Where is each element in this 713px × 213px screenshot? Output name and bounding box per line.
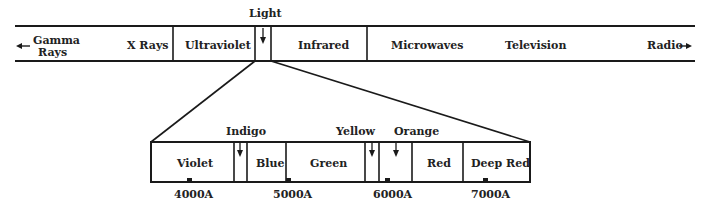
tick-6000-label: 6000A bbox=[373, 188, 413, 201]
band-violet-label: Violet bbox=[176, 157, 214, 170]
region-radio-label: Radio bbox=[647, 39, 683, 52]
region-gamma-label-line2: Rays bbox=[38, 46, 67, 59]
region-light-label: Light bbox=[249, 7, 283, 20]
indigo-down-arrow-icon bbox=[237, 143, 243, 157]
band-green-label: Green bbox=[310, 157, 347, 170]
yellow-down-arrow-icon bbox=[369, 143, 375, 157]
band-yellow-label: Yellow bbox=[335, 125, 376, 138]
tick-4000-marker bbox=[187, 178, 192, 182]
tick-5000-label: 5000A bbox=[273, 188, 313, 201]
left-arrow-icon bbox=[16, 43, 30, 49]
band-deep-red-label: Deep Red bbox=[471, 157, 530, 170]
tick-7000-marker bbox=[483, 178, 488, 182]
region-microwaves-label: Microwaves bbox=[391, 39, 463, 52]
full-spectrum-band: Gamma Rays X Rays Ultraviolet Light Infr… bbox=[15, 7, 695, 61]
band-indigo-label: Indigo bbox=[226, 125, 266, 138]
region-ultraviolet-label: Ultraviolet bbox=[185, 39, 252, 52]
orange-down-arrow-icon bbox=[393, 143, 399, 157]
region-television-label: Television bbox=[505, 39, 566, 52]
electromagnetic-spectrum-diagram: Gamma Rays X Rays Ultraviolet Light Infr… bbox=[0, 0, 713, 213]
band-orange-label: Orange bbox=[394, 125, 439, 138]
tick-5000-marker bbox=[286, 178, 291, 182]
region-xrays-label: X Rays bbox=[127, 39, 168, 52]
band-red-label: Red bbox=[427, 157, 451, 170]
tick-4000-label: 4000A bbox=[174, 188, 214, 201]
tick-6000-marker bbox=[385, 178, 390, 182]
band-blue-label: Blue bbox=[256, 157, 284, 170]
tick-7000-label: 7000A bbox=[471, 188, 511, 201]
visible-light-band: Violet Indigo Blue Green Yellow Orange R… bbox=[151, 125, 530, 201]
light-down-arrow-icon bbox=[260, 28, 266, 44]
region-infrared-label: Infrared bbox=[298, 39, 350, 52]
